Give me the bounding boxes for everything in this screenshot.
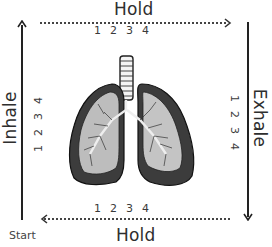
count: 4 xyxy=(228,143,241,150)
right-counts: 1 2 3 4 xyxy=(228,93,241,153)
arrow-right-icon xyxy=(224,18,232,28)
bottom-dotted-arrow-line xyxy=(44,218,230,220)
inhale-label: Inhale xyxy=(0,90,20,146)
left-arrow-line xyxy=(21,25,23,220)
exhale-label: Exhale xyxy=(250,88,270,148)
lungs-illustration-icon xyxy=(64,54,206,194)
count: 3 xyxy=(228,127,241,134)
top-hold-label: Hold xyxy=(114,0,154,19)
start-label: Start xyxy=(9,229,36,242)
arrow-up-icon xyxy=(17,20,27,28)
count: 3 xyxy=(32,113,45,120)
count: 2 xyxy=(110,24,117,37)
count: 4 xyxy=(142,202,149,215)
count: 2 xyxy=(32,129,45,136)
left-counts: 1 2 3 4 xyxy=(32,95,45,155)
count: 2 xyxy=(228,111,241,118)
top-counts: 1 2 3 4 xyxy=(94,24,149,37)
count: 4 xyxy=(32,97,45,104)
count: 4 xyxy=(142,24,149,37)
count: 3 xyxy=(126,202,133,215)
bottom-counts: 1 2 3 4 xyxy=(94,202,149,215)
count: 2 xyxy=(110,202,117,215)
count: 1 xyxy=(94,24,101,37)
arrow-down-icon xyxy=(243,213,253,221)
right-arrow-line xyxy=(247,22,249,217)
count: 1 xyxy=(94,202,101,215)
bottom-hold-label: Hold xyxy=(116,225,156,245)
count: 1 xyxy=(32,145,45,152)
count: 3 xyxy=(126,24,133,37)
count: 1 xyxy=(228,95,241,102)
